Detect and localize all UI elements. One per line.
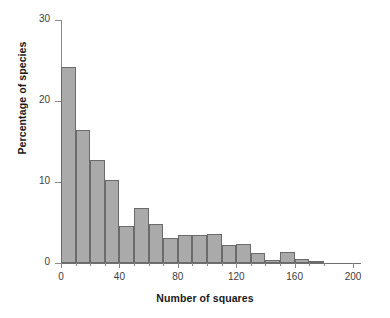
histogram-bar	[105, 180, 120, 263]
histogram-bar	[178, 235, 193, 263]
x-minor-tick	[324, 263, 325, 266]
histogram-bar	[265, 260, 280, 263]
x-tick-label: 200	[333, 271, 373, 282]
plot-area	[61, 20, 356, 263]
x-tick	[61, 263, 62, 268]
histogram-bar	[222, 245, 237, 263]
histogram-figure: Percentage of species Number of squares …	[0, 0, 390, 318]
x-tick-label: 160	[275, 271, 315, 282]
x-minor-tick	[280, 263, 281, 266]
histogram-bar	[149, 224, 164, 263]
x-tick-label: 120	[216, 271, 256, 282]
x-minor-tick	[222, 263, 223, 266]
histogram-bar	[207, 234, 222, 263]
x-tick	[236, 263, 237, 268]
histogram-bar	[119, 226, 134, 263]
x-minor-tick	[134, 263, 135, 266]
x-tick-label: 40	[99, 271, 139, 282]
histogram-bar	[192, 235, 207, 263]
x-minor-tick	[163, 263, 164, 266]
x-axis-line	[61, 263, 361, 264]
histogram-bar	[309, 261, 324, 263]
y-tick-label: 0	[10, 256, 50, 267]
x-minor-tick	[149, 263, 150, 266]
y-tick-label: 30	[10, 13, 50, 24]
histogram-bar	[163, 238, 178, 263]
histogram-bar	[236, 244, 251, 263]
x-minor-tick	[192, 263, 193, 266]
x-minor-tick	[90, 263, 91, 266]
histogram-bar	[61, 67, 76, 263]
x-minor-tick	[105, 263, 106, 266]
x-minor-tick	[76, 263, 77, 266]
histogram-bar	[280, 252, 295, 263]
y-tick-label: 20	[10, 94, 50, 105]
histogram-bar	[251, 253, 266, 263]
x-tick	[178, 263, 179, 268]
x-minor-tick	[309, 263, 310, 266]
x-tick	[353, 263, 354, 268]
histogram-bar	[90, 160, 105, 263]
x-tick	[119, 263, 120, 268]
x-tick-label: 80	[158, 271, 198, 282]
y-tick-label: 10	[10, 175, 50, 186]
x-minor-tick	[251, 263, 252, 266]
x-tick	[295, 263, 296, 268]
x-axis-title: Number of squares	[55, 292, 355, 304]
x-minor-tick	[265, 263, 266, 266]
histogram-bar	[76, 130, 91, 263]
histogram-bar	[134, 208, 149, 263]
x-tick-label: 0	[41, 271, 81, 282]
x-minor-tick	[207, 263, 208, 266]
histogram-bar	[295, 259, 310, 263]
